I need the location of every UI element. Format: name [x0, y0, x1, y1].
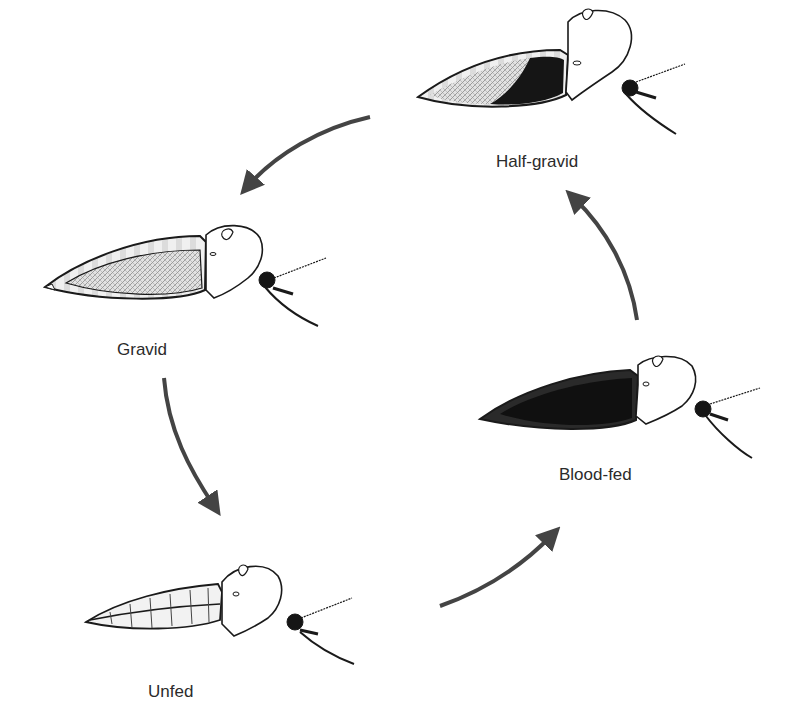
mosquito-blood-fed — [480, 356, 760, 458]
arrow-blood-fed-to-half-gravid — [574, 198, 637, 320]
cycle-diagram — [0, 0, 794, 724]
mosquito-half-gravid — [418, 9, 685, 134]
label-unfed: Unfed — [148, 682, 193, 702]
label-blood-fed: Blood-fed — [559, 465, 632, 485]
arrow-unfed-to-blood-fed — [440, 535, 552, 606]
label-gravid: Gravid — [117, 340, 167, 360]
abdomen-unfed — [86, 584, 222, 629]
arrow-half-gravid-to-gravid — [248, 117, 370, 186]
mosquito-gravid — [45, 226, 326, 326]
label-half-gravid: Half-gravid — [496, 152, 578, 172]
arrow-gravid-to-unfed — [164, 378, 214, 506]
mosquito-unfed — [86, 565, 354, 664]
